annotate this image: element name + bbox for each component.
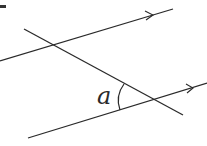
lower-parallel-line xyxy=(28,83,207,138)
geometry-diagram: a xyxy=(0,0,207,146)
upper-parallel-arrow-icon xyxy=(145,11,153,20)
angle-arc-icon xyxy=(118,84,124,110)
upper-parallel-line xyxy=(0,9,173,61)
cropped-mark xyxy=(0,5,6,8)
angle-label: a xyxy=(97,82,111,110)
